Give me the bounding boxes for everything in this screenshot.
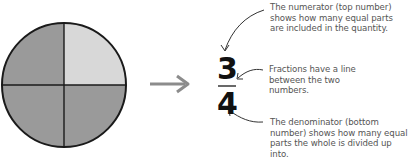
numerator-curved-arrow-icon	[225, 10, 264, 50]
right-arrow-icon	[150, 76, 188, 92]
fraction-denominator: 4	[217, 89, 238, 119]
fraction-numerator: 3	[217, 54, 238, 84]
pie-chart	[2, 23, 126, 147]
denominator-annotation: The denominator (bottom number) shows ho…	[270, 117, 408, 157]
numerator-annotation: The numerator (top number) shows how man…	[270, 2, 408, 34]
line-curved-arrow-icon	[238, 69, 263, 78]
line-annotation: Fractions have a line between the two nu…	[269, 64, 379, 96]
